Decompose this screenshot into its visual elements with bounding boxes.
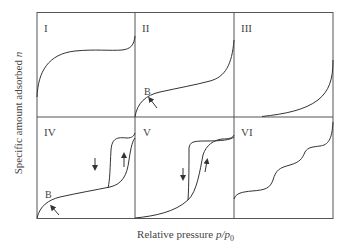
isotherm-curve-III (262, 60, 333, 117)
x-axis-label: Relative pressure p/p0 (0, 228, 353, 243)
isotherm-curve-II (135, 40, 234, 117)
isotherm-curve-V-adsorption (135, 135, 234, 218)
arrow-icon (52, 207, 59, 215)
arrow-icon (150, 99, 157, 108)
panel-label-II: II (142, 22, 150, 34)
point-label-B-IV: B (45, 189, 52, 200)
panel-label-I: I (44, 22, 48, 34)
arrow-up-icon (205, 161, 207, 172)
grid-frame (37, 13, 333, 219)
panel-label-III: III (241, 22, 252, 34)
isotherm-figure: I II III IV V VI B B (0, 0, 353, 248)
isotherm-curve-I (37, 36, 135, 97)
y-axis-label: Specific amount adsorbed n (12, 33, 24, 193)
isotherm-curve-V-desorption (188, 137, 234, 200)
point-label-B-II: B (144, 86, 151, 97)
isotherm-curve-IV-adsorption (37, 138, 135, 218)
panel-label-VI: VI (241, 126, 253, 138)
panel-label-V: V (143, 126, 151, 138)
isotherm-curve-IV-desorption (108, 133, 135, 188)
panel-label-IV: IV (44, 126, 56, 138)
